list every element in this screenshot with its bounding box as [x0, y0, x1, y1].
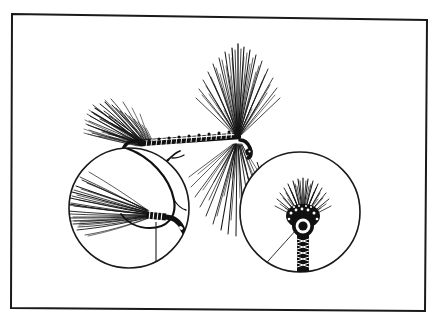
magnified-ribbed-shank	[297, 234, 309, 272]
paper-background	[0, 0, 439, 330]
hook-eye-ring	[292, 215, 314, 237]
inset-head-detail	[240, 152, 360, 272]
illustration-page: dry fly fishing fly tying diagram tail t…	[0, 0, 439, 330]
fly-illustration	[0, 0, 439, 330]
